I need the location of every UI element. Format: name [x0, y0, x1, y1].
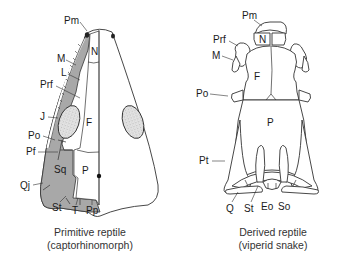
label-eo-r: Eo [261, 201, 274, 212]
label-p: P [82, 165, 89, 176]
label-f: F [86, 117, 92, 128]
skull-comparison-diagram: Pm N M L Prf J F Po Pf Sq P Qj St T Pp [0, 0, 342, 267]
label-j: J [40, 111, 45, 122]
occipital-condyle [263, 179, 281, 190]
right-caption-line1: Derived reptile [239, 226, 307, 238]
label-n: N [91, 46, 98, 57]
left-caption-line2: (captorhinomorph) [47, 239, 133, 251]
label-pm-r: Pm [242, 10, 257, 21]
postorbital-left [231, 90, 243, 102]
label-pm: Pm [64, 15, 79, 26]
nostril-right [111, 33, 115, 38]
label-q-r: Q [226, 203, 234, 214]
label-pp: Pp [86, 205, 99, 216]
label-m: M [57, 53, 65, 64]
primitive-reptile-skull: Pm N M L Prf J F Po Pf Sq P Qj St T Pp [20, 15, 158, 251]
label-n-r: N [259, 34, 266, 45]
label-qj: Qj [20, 180, 30, 191]
label-so-r: So [278, 201, 291, 212]
label-po-r: Po [196, 88, 209, 99]
label-pt-r: Pt [199, 155, 209, 166]
derived-reptile-skull: Pm N Prf M F Po P Pt Q St Eo So Derived … [196, 10, 319, 251]
parietal [236, 100, 306, 178]
label-l: L [61, 67, 67, 78]
label-sq: Sq [54, 164, 66, 175]
label-t: T [72, 205, 78, 216]
left-caption-line1: Primitive reptile [54, 226, 126, 238]
label-pf: Pf [26, 146, 36, 157]
label-m-r: M [212, 50, 220, 61]
nostril-left [85, 32, 89, 38]
right-caption-line2: (viperid snake) [239, 239, 308, 251]
label-st: St [52, 202, 62, 213]
nasal-right [272, 33, 286, 45]
label-p-r: P [267, 117, 274, 128]
label-f-r: F [254, 71, 260, 82]
exoccipital-right-process [279, 145, 288, 182]
exoccipital-left-process [256, 145, 265, 182]
pineal-foramen [97, 174, 101, 178]
label-po: Po [28, 130, 41, 141]
label-st-r: St [244, 203, 254, 214]
label-prf-r: Prf [213, 34, 226, 45]
label-prf: Prf [40, 79, 53, 90]
postorbital-right [299, 90, 311, 102]
premaxilla [255, 22, 286, 34]
